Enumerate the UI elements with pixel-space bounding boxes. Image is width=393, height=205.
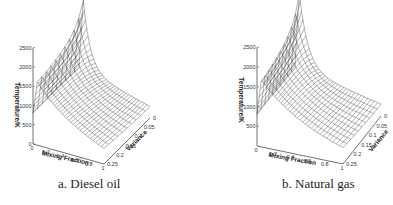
surface-plot-natural-gas: 500100015002000250000.20.40.60.8100.050.… [196, 0, 393, 175]
z-tick-label: 2000 [243, 64, 255, 70]
surface-mesh [33, 0, 150, 148]
x-tick-label: 1 [101, 165, 104, 171]
caption-diesel-oil: a. Diesel oil [58, 176, 120, 192]
z-axis-label: Temperature/K [13, 82, 21, 128]
y-tick-label: 0.2 [116, 152, 124, 158]
z-tick-label: 2500 [243, 44, 255, 50]
z-tick-label: 500 [22, 122, 31, 128]
x-tick-label: 0 [30, 145, 33, 151]
y-tick-label: 0.05 [376, 123, 387, 129]
x-tick-label: 1 [340, 165, 343, 171]
y-tick-label: 0.25 [107, 161, 118, 167]
y-tick-label: 0 [384, 113, 387, 119]
surface-mesh [257, 0, 381, 148]
z-tick-label: 2500 [19, 45, 31, 51]
y-tick-label: 0.05 [144, 124, 155, 130]
y-tick-label: 0.2 [354, 151, 362, 157]
y-tick-label: 0.25 [346, 161, 357, 167]
x-tick-label: 0 [254, 147, 257, 153]
panel-diesel-oil: 0500100015002000250000.20.40.60.8100.050… [0, 0, 196, 205]
panel-natural-gas: 500100015002000250000.20.40.60.8100.050.… [196, 0, 393, 205]
x-tick-label: 0.8 [321, 161, 329, 167]
z-tick-label: 2000 [19, 64, 31, 70]
caption-natural-gas: b. Natural gas [282, 176, 355, 192]
x-axis-label: Mixing Fraction [41, 149, 90, 167]
y-tick-label: 0 [153, 115, 156, 121]
z-tick-label: 500 [246, 123, 255, 129]
surface-plot-diesel-oil: 0500100015002000250000.20.40.60.8100.050… [0, 0, 196, 175]
z-axis-label: Temperature/K [237, 77, 245, 123]
